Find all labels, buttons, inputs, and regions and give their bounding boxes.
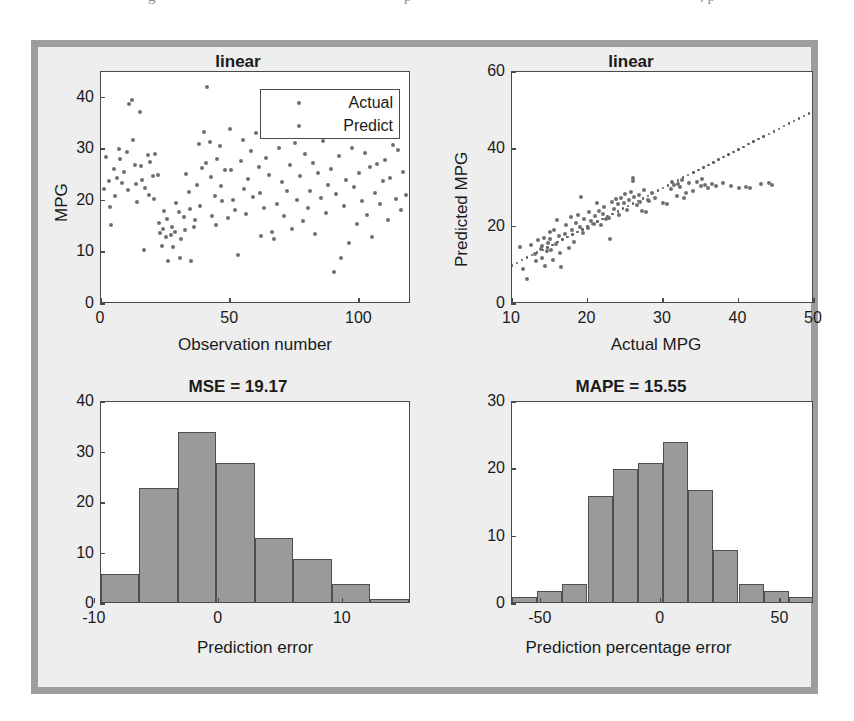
scatter-point: [200, 166, 204, 170]
scatter-point: [259, 234, 263, 238]
scatter-point: [684, 191, 688, 195]
scatter-point: [125, 150, 129, 154]
scatter-point: [166, 259, 170, 263]
scatter-point: [153, 152, 157, 156]
scatter-point: [399, 208, 403, 212]
y-tick-label: 40: [467, 139, 505, 157]
histogram-bar: [613, 469, 638, 603]
scatter-point: [627, 198, 631, 202]
scatter-point: [669, 187, 673, 191]
x-tickmark: [540, 598, 542, 603]
x-tickmark: [738, 298, 740, 303]
plot-area-prediction-error: [100, 401, 410, 603]
y-tickmark: [511, 468, 516, 470]
scatter-point: [324, 211, 328, 215]
scatter-point: [642, 188, 646, 192]
reference-line-dot: [571, 233, 574, 236]
scatter-point: [193, 218, 197, 222]
scatter-point: [386, 218, 390, 222]
scatter-point: [608, 237, 612, 241]
scatter-point: [209, 175, 213, 179]
reference-line-dot: [773, 130, 776, 133]
scatter-point: [228, 127, 232, 131]
y-tick-label: 0: [56, 594, 94, 612]
scatter-point: [138, 110, 142, 114]
scatter-point: [368, 165, 372, 169]
scatter-point: [569, 215, 573, 219]
histogram-bar: [562, 584, 587, 603]
scatter-point: [131, 138, 135, 142]
scatter-point: [770, 183, 774, 187]
scatter-point: [178, 256, 182, 260]
reference-line-dot: [546, 246, 549, 249]
y-tickmark: [511, 303, 516, 305]
scatter-point: [737, 186, 741, 190]
scatter-point: [170, 225, 174, 229]
scatter-point: [360, 199, 364, 203]
page-text-fragments: g p , p: [0, 0, 854, 14]
scatter-point: [650, 191, 654, 195]
scatter-point: [223, 168, 227, 172]
x-tickmark: [660, 598, 662, 603]
legend-row-actual: Actual: [261, 91, 399, 115]
scatter-point: [542, 236, 546, 240]
scatter-point: [383, 158, 387, 162]
scatter-point: [262, 206, 266, 210]
scatter-point: [233, 208, 237, 212]
scatter-point: [246, 177, 250, 181]
reference-line-dot: [803, 115, 806, 118]
scatter-point: [548, 237, 552, 241]
scatter-point: [219, 184, 223, 188]
scatter-point: [706, 186, 710, 190]
reference-line-dot: [798, 117, 801, 120]
scatter-point: [220, 199, 224, 203]
figure-canvas: linear MPG Observation number 0501000102…: [38, 47, 811, 687]
reference-line-dot: [752, 140, 755, 143]
legend-row-predict: Predict: [261, 114, 399, 138]
scatter-point: [242, 187, 246, 191]
scatter-point: [623, 192, 627, 196]
reference-line-dot: [687, 174, 690, 177]
reference-line-dot: [662, 187, 665, 190]
scatter-point: [625, 208, 629, 212]
histogram-bar: [739, 584, 764, 603]
scatter-point: [133, 163, 137, 167]
scatter-point: [687, 181, 691, 185]
x-tickmark: [662, 298, 664, 303]
axes-title-observations: linear: [68, 52, 408, 72]
scatter-point: [306, 206, 310, 210]
histogram-bar: [293, 559, 331, 603]
scatter-point: [700, 177, 704, 181]
scatter-point: [614, 197, 618, 201]
scatter-point: [545, 249, 549, 253]
scatter-point: [257, 165, 261, 169]
scatter-point: [301, 219, 305, 223]
scatter-point: [529, 243, 533, 247]
histogram-bar: [663, 442, 688, 603]
scatter-point: [619, 196, 623, 200]
scatter-point: [559, 265, 563, 269]
reference-line-dot: [596, 220, 599, 223]
scatter-point: [151, 174, 155, 178]
scatter-point: [551, 258, 555, 262]
scatter-point: [182, 215, 186, 219]
scatter-point: [678, 185, 682, 189]
scatter-point: [564, 223, 568, 227]
scatter-point: [285, 189, 289, 193]
scatter-point: [258, 191, 262, 195]
histogram-bar: [139, 488, 177, 603]
scatter-point: [147, 193, 151, 197]
scatter-point: [249, 149, 253, 153]
x-tickmark: [358, 298, 360, 303]
reference-line-dot: [768, 133, 771, 136]
scatter-point: [135, 200, 139, 204]
scatter-point: [226, 216, 230, 220]
scatter-point: [139, 164, 143, 168]
scatter-point: [311, 161, 315, 165]
x-tick-label: 100: [345, 309, 372, 327]
text-fragment: , p: [700, 0, 715, 5]
reference-line-dot: [712, 161, 715, 164]
scatter-point: [204, 161, 208, 165]
scatter-point: [244, 212, 248, 216]
legend-observations[interactable]: Actual Predict: [260, 89, 400, 139]
